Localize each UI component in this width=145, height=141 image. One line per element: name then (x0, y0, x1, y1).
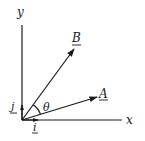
x-axis-label: x (126, 113, 133, 127)
vector-a (22, 97, 97, 120)
vector-b-label: B (71, 31, 81, 45)
vector-a-label: A (98, 87, 108, 101)
vector-diagram: y x B A θ j i (0, 0, 145, 141)
unit-i-label: i (33, 121, 37, 134)
unit-j-label: j (8, 100, 15, 113)
y-axis-label: y (16, 5, 24, 19)
angle-label: θ (43, 101, 50, 114)
angle-arc (33, 105, 40, 115)
